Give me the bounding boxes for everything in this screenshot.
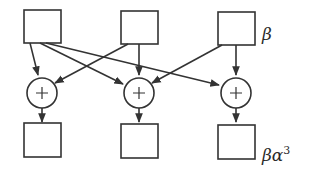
input-box-1 xyxy=(24,10,61,43)
output-box-3 xyxy=(218,125,255,159)
input-box-3 xyxy=(218,12,255,45)
output-box-2 xyxy=(121,124,158,158)
beta-alpha-label: βα xyxy=(262,145,283,165)
input-box-2 xyxy=(121,11,158,44)
bottom-row-label: βα3 xyxy=(262,145,290,164)
exponent-label: 3 xyxy=(283,144,290,157)
edge-in1-add2 xyxy=(40,43,123,84)
plus-icon-2 xyxy=(133,87,145,99)
top-row-label: β xyxy=(262,26,272,43)
edge-in1-add1 xyxy=(30,43,38,75)
plus-icon-1 xyxy=(36,87,48,99)
output-box-1 xyxy=(24,123,61,157)
beta-label: β xyxy=(262,24,272,44)
edge-in2-add1 xyxy=(55,44,128,83)
plus-icon-3 xyxy=(230,87,242,99)
